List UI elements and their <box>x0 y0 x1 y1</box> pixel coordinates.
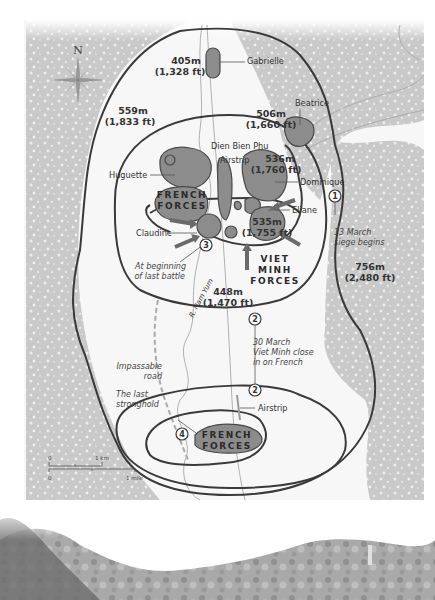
label-airstrip-south: Airstrip <box>258 403 288 413</box>
svg-text:(2,480 ft): (2,480 ft) <box>345 272 396 283</box>
svg-text:(1,755 ft): (1,755 ft) <box>242 227 293 238</box>
event-marker-1: 1 <box>329 190 341 202</box>
svg-text:Impassable: Impassable <box>116 362 162 371</box>
svg-text:1: 1 <box>332 192 338 201</box>
svg-text:road: road <box>144 372 163 381</box>
svg-text:FORCES: FORCES <box>157 201 207 211</box>
svg-text:FORCES: FORCES <box>202 441 252 451</box>
svg-text:535m: 535m <box>252 216 282 227</box>
vegetation-photo <box>0 505 435 600</box>
svg-text:of last battle: of last battle <box>134 272 185 281</box>
event-marker-2b: 2 <box>249 384 261 396</box>
label-french-forces-north: FRENCH FORCES <box>157 190 208 211</box>
svg-text:1 km: 1 km <box>95 455 109 461</box>
svg-text:FORCES: FORCES <box>250 276 300 286</box>
event-marker-2a: 2 <box>249 313 261 325</box>
event-marker-3: 3 <box>200 239 212 251</box>
svg-text:1 mile: 1 mile <box>126 475 144 481</box>
svg-text:506m: 506m <box>256 108 286 119</box>
svg-text:3: 3 <box>203 241 209 250</box>
event-marker-4: 4 <box>176 428 188 440</box>
svg-text:At beginning: At beginning <box>134 262 186 271</box>
svg-text:VIET: VIET <box>260 254 289 264</box>
label-eliane: Eliane <box>292 205 317 215</box>
compass-north-label: N <box>73 44 83 57</box>
svg-text:FRENCH: FRENCH <box>157 190 208 200</box>
label-claudine: Claudine <box>136 228 172 238</box>
svg-text:stronghold: stronghold <box>116 400 160 409</box>
caption-event-3: At beginning of last battle <box>134 262 186 281</box>
label-dien-bien-phu: Dien Bien Phu <box>211 141 268 151</box>
svg-text:2: 2 <box>252 386 258 395</box>
svg-text:in on French: in on French <box>253 358 303 367</box>
svg-text:405m: 405m <box>171 55 201 66</box>
svg-text:0: 0 <box>48 455 52 461</box>
svg-text:(1,833 ft): (1,833 ft) <box>105 116 156 127</box>
svg-text:13 March: 13 March <box>334 228 371 237</box>
svg-text:siege begins: siege begins <box>334 238 384 247</box>
position-gabrielle <box>206 48 220 78</box>
label-gabrielle: Gabrielle <box>247 56 284 66</box>
svg-text:2: 2 <box>252 315 258 324</box>
battle-map: N 1 3 2 2 4 Gabrielle Beatrice Huguett <box>0 0 435 600</box>
svg-text:FRENCH: FRENCH <box>202 430 253 440</box>
svg-text:MINH: MINH <box>258 265 292 275</box>
svg-text:The last: The last <box>116 390 149 399</box>
svg-text:(1,760 ft): (1,760 ft) <box>251 164 302 175</box>
svg-text:0: 0 <box>48 475 52 481</box>
label-beatrice: Beatrice <box>295 98 329 108</box>
svg-text:(1,470 ft): (1,470 ft) <box>203 297 254 308</box>
svg-text:(1,660 ft): (1,660 ft) <box>246 119 297 130</box>
svg-text:756m: 756m <box>355 261 385 272</box>
svg-text:559m: 559m <box>118 105 148 116</box>
label-huguette: Huguette <box>109 170 147 180</box>
label-french-forces-south: FRENCH FORCES <box>202 430 253 451</box>
svg-text:4: 4 <box>179 430 185 439</box>
svg-text:(1,328 ft): (1,328 ft) <box>155 66 206 77</box>
svg-text:448m: 448m <box>213 286 243 297</box>
position-claudine <box>197 214 221 238</box>
label-dominique: Dominique <box>300 177 344 187</box>
svg-text:536m: 536m <box>265 153 295 164</box>
svg-text:30 March: 30 March <box>253 338 290 347</box>
label-airstrip-north: Airstrip <box>220 155 250 165</box>
svg-text:Viet Minh close: Viet Minh close <box>253 348 314 357</box>
